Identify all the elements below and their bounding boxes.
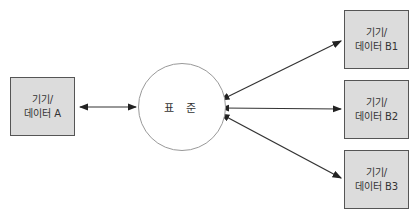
device-data-b3-box: 기기/ 데이터 B3 xyxy=(344,150,409,209)
standard-label: 표 준 xyxy=(164,99,200,115)
arrow-standard-to-b3 xyxy=(221,114,341,178)
device-data-b1-box: 기기/ 데이터 B1 xyxy=(344,10,409,69)
arrow-standard-to-b2 xyxy=(221,108,341,109)
standard-node: 표 준 xyxy=(138,63,226,151)
box-line2: 데이터 A xyxy=(24,107,61,121)
box-line1: 기기/ xyxy=(32,93,53,107)
box-line1: 기기/ xyxy=(366,26,387,40)
device-data-a-box: 기기/ 데이터 A xyxy=(10,77,75,136)
arrow-standard-to-b1 xyxy=(221,41,341,100)
box-line2: 데이터 B3 xyxy=(355,180,398,194)
box-line2: 데이터 B2 xyxy=(355,110,398,124)
device-data-b2-box: 기기/ 데이터 B2 xyxy=(344,80,409,139)
box-line1: 기기/ xyxy=(366,96,387,110)
box-line2: 데이터 B1 xyxy=(355,40,398,54)
box-line1: 기기/ xyxy=(366,166,387,180)
